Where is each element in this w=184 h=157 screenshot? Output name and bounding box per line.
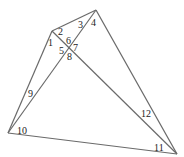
diagonal-a-d [52, 31, 177, 154]
angle-label-11: 11 [154, 142, 164, 153]
edge-c-a [8, 31, 52, 133]
edge-b-d [96, 10, 177, 154]
angle-label-5: 5 [59, 45, 64, 56]
angle-label-10: 10 [17, 125, 27, 136]
angle-label-4: 4 [91, 17, 96, 28]
angle-label-9: 9 [28, 88, 33, 99]
angle-label-3: 3 [78, 19, 83, 30]
angle-label-1: 1 [48, 37, 53, 48]
quadrilateral-diagram: 1 2 3 4 5 6 7 8 9 10 11 12 [0, 0, 184, 157]
angle-label-12: 12 [141, 108, 151, 119]
angle-label-6: 6 [66, 35, 71, 46]
angle-label-7: 7 [73, 42, 78, 53]
angle-labels: 1 2 3 4 5 6 7 8 9 10 11 12 [17, 17, 164, 153]
edge-d-c [8, 133, 177, 154]
edges [8, 10, 177, 154]
angle-label-2: 2 [58, 26, 63, 37]
angle-label-8: 8 [67, 51, 72, 62]
